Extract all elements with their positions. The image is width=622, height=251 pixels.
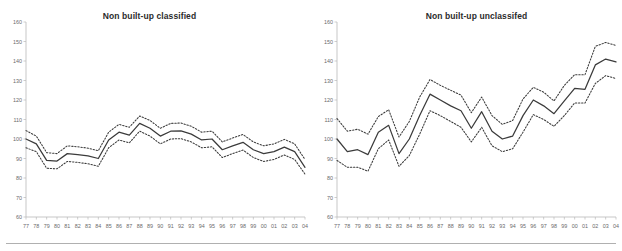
svg-text:88: 88 [137, 223, 143, 229]
svg-text:86: 86 [427, 223, 433, 229]
svg-text:87: 87 [126, 223, 132, 229]
series-dotted-2 [26, 131, 305, 174]
svg-text:96: 96 [530, 223, 536, 229]
svg-text:00: 00 [572, 223, 578, 229]
svg-text:90: 90 [157, 223, 163, 229]
svg-text:120: 120 [13, 97, 22, 103]
svg-text:81: 81 [375, 223, 381, 229]
svg-text:79: 79 [44, 223, 50, 229]
svg-text:110: 110 [13, 117, 22, 123]
svg-text:77: 77 [334, 223, 340, 229]
plot-area-right: 6070809010011012013014015016077787980818… [311, 0, 622, 240]
svg-text:81: 81 [64, 223, 70, 229]
svg-text:98: 98 [551, 223, 557, 229]
chart-panel-non-built-up-unclassifed: Non built-up unclassifed 607080901001101… [311, 0, 622, 240]
svg-text:84: 84 [95, 223, 101, 229]
svg-text:80: 80 [16, 175, 22, 181]
svg-text:85: 85 [417, 223, 423, 229]
svg-text:80: 80 [54, 223, 60, 229]
series-dotted-2 [337, 76, 616, 172]
svg-text:01: 01 [582, 223, 588, 229]
svg-text:02: 02 [592, 223, 598, 229]
svg-text:04: 04 [302, 223, 308, 229]
svg-text:150: 150 [13, 39, 22, 45]
svg-text:82: 82 [75, 223, 81, 229]
svg-text:92: 92 [489, 223, 495, 229]
svg-text:89: 89 [458, 223, 464, 229]
svg-text:90: 90 [468, 223, 474, 229]
svg-text:70: 70 [327, 195, 333, 201]
svg-text:77: 77 [23, 223, 29, 229]
svg-text:79: 79 [355, 223, 361, 229]
svg-text:80: 80 [365, 223, 371, 229]
footer-divider [6, 243, 616, 244]
plot-area-left: 6070809010011012013014015016077787980818… [0, 0, 311, 240]
svg-text:78: 78 [344, 223, 350, 229]
svg-text:83: 83 [85, 223, 91, 229]
svg-text:78: 78 [33, 223, 39, 229]
svg-text:60: 60 [16, 214, 22, 220]
svg-text:86: 86 [116, 223, 122, 229]
svg-text:94: 94 [510, 223, 516, 229]
svg-text:89: 89 [147, 223, 153, 229]
svg-text:82: 82 [386, 223, 392, 229]
svg-text:85: 85 [106, 223, 112, 229]
svg-text:60: 60 [327, 214, 333, 220]
svg-text:03: 03 [292, 223, 298, 229]
svg-text:120: 120 [324, 97, 333, 103]
svg-text:87: 87 [437, 223, 443, 229]
svg-text:95: 95 [209, 223, 215, 229]
svg-text:70: 70 [16, 195, 22, 201]
svg-text:92: 92 [178, 223, 184, 229]
svg-text:02: 02 [281, 223, 287, 229]
svg-text:150: 150 [324, 39, 333, 45]
svg-text:01: 01 [271, 223, 277, 229]
svg-text:96: 96 [219, 223, 225, 229]
svg-text:94: 94 [199, 223, 205, 229]
chart-panel-non-built-up-classified: Non built-up classified 6070809010011012… [0, 0, 311, 240]
svg-text:04: 04 [613, 223, 619, 229]
svg-text:97: 97 [230, 223, 236, 229]
svg-text:160: 160 [324, 19, 333, 25]
svg-text:03: 03 [603, 223, 609, 229]
svg-text:100: 100 [324, 136, 333, 142]
svg-text:110: 110 [324, 117, 333, 123]
svg-text:140: 140 [13, 58, 22, 64]
svg-text:99: 99 [250, 223, 256, 229]
svg-text:95: 95 [520, 223, 526, 229]
svg-text:00: 00 [261, 223, 267, 229]
svg-text:130: 130 [13, 78, 22, 84]
svg-text:140: 140 [324, 58, 333, 64]
svg-text:100: 100 [13, 136, 22, 142]
svg-text:90: 90 [327, 156, 333, 162]
svg-text:160: 160 [13, 19, 22, 25]
svg-text:91: 91 [479, 223, 485, 229]
svg-text:130: 130 [324, 78, 333, 84]
svg-text:84: 84 [406, 223, 412, 229]
svg-text:93: 93 [499, 223, 505, 229]
figure-container: Non built-up classified 6070809010011012… [0, 0, 622, 251]
svg-text:93: 93 [188, 223, 194, 229]
svg-text:88: 88 [448, 223, 454, 229]
svg-text:80: 80 [327, 175, 333, 181]
svg-text:99: 99 [561, 223, 567, 229]
svg-text:91: 91 [168, 223, 174, 229]
svg-text:90: 90 [16, 156, 22, 162]
svg-text:98: 98 [240, 223, 246, 229]
svg-text:83: 83 [396, 223, 402, 229]
svg-text:97: 97 [541, 223, 547, 229]
series-solid-0 [337, 59, 616, 155]
